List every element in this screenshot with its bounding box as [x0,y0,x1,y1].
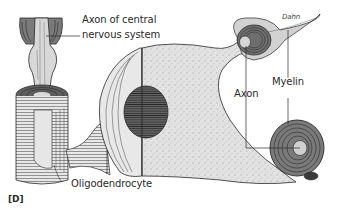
oligodendrocyte-diagram [0,0,348,208]
cns-axon-segment [16,18,68,184]
label-nervous-system: nervous system [82,29,160,40]
label-oligodendrocyte: Oligodendrocyte [71,178,152,189]
label-axon: Axon [234,88,259,99]
oligodendrocyte-cell-body [99,36,296,184]
panel-label: [D] [8,194,24,204]
label-axon-of-cns-line1: Axon of central [82,14,156,25]
nucleus [124,86,168,138]
myelin-sheath-upper [234,14,320,60]
label-axon-of-cns: Axon of central [82,14,156,25]
label-axon-of-cns-line2: nervous system [82,29,160,40]
label-myelin: Myelin [272,76,304,87]
axon-core-upper [240,36,251,48]
artist-signature: Dahn [282,12,300,23]
